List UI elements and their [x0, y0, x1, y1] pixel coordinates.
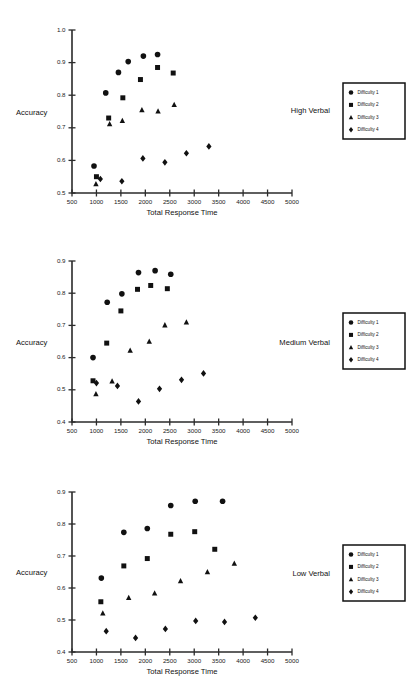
data-point — [162, 159, 167, 166]
figure-canvas: 0.50.60.70.80.91.05001000150020002500300… — [0, 0, 415, 698]
y-axis-title: Accuracy — [16, 568, 47, 577]
data-point — [116, 70, 122, 76]
series-square — [98, 529, 217, 604]
data-point — [193, 618, 198, 625]
data-point — [120, 118, 125, 123]
x-tick-label: 3500 — [212, 198, 226, 205]
data-point — [135, 287, 140, 292]
data-point — [90, 355, 96, 361]
series-circle — [91, 52, 160, 169]
data-point — [104, 341, 109, 346]
legend-label: Difficulty 3 — [358, 345, 380, 350]
x-tick-label: 500 — [67, 198, 78, 205]
data-point — [155, 65, 160, 70]
data-point — [103, 90, 109, 96]
legend-marker-square — [349, 565, 353, 569]
data-point — [205, 569, 210, 574]
y-tick-label: 0.6 — [57, 353, 66, 360]
data-point — [126, 595, 131, 600]
data-point — [91, 163, 97, 169]
data-point — [220, 498, 226, 504]
legend-label: Difficulty 4 — [358, 357, 380, 362]
y-tick-label: 0.5 — [57, 189, 66, 196]
y-tick-label: 0.6 — [57, 156, 66, 163]
data-point — [125, 59, 131, 65]
chart-1: 0.50.60.70.80.91.05001000150020002500300… — [16, 26, 405, 217]
x-tick-label: 2500 — [163, 657, 177, 664]
x-tick-label: 4000 — [236, 198, 250, 205]
x-tick-label: 2000 — [138, 198, 152, 205]
chart-title: High Verbal — [291, 106, 331, 115]
data-point — [141, 53, 147, 59]
series-diamond — [104, 614, 258, 641]
x-tick-label: 1000 — [90, 427, 104, 434]
y-tick-label: 0.5 — [57, 616, 66, 623]
x-tick-label: 500 — [67, 657, 78, 664]
data-point — [155, 108, 160, 113]
y-tick-label: 0.8 — [57, 289, 66, 296]
series-square — [91, 283, 170, 383]
x-tick-label: 5000 — [285, 657, 299, 664]
data-point — [98, 599, 103, 604]
data-point — [201, 370, 206, 377]
y-tick-label: 0.9 — [57, 58, 66, 65]
data-point — [179, 376, 184, 383]
data-point — [148, 283, 153, 288]
data-point — [106, 116, 111, 121]
data-point — [100, 610, 105, 615]
data-point — [119, 178, 124, 185]
series-triangle — [100, 560, 237, 615]
x-tick-label: 1500 — [114, 657, 128, 664]
data-point — [119, 291, 125, 297]
data-point — [184, 150, 189, 157]
legend: Difficulty 1Difficulty 2Difficulty 3Diff… — [343, 313, 405, 369]
legend-label: Difficulty 1 — [358, 552, 380, 557]
data-point — [93, 391, 98, 396]
series-triangle — [93, 319, 189, 396]
data-point — [99, 575, 105, 581]
data-point — [184, 319, 189, 324]
y-tick-label: 0.8 — [57, 91, 66, 98]
chart-title: Medium Verbal — [279, 338, 330, 347]
x-tick-label: 4500 — [261, 198, 275, 205]
data-point — [136, 270, 142, 276]
data-point — [136, 398, 141, 405]
y-tick-label: 0.7 — [57, 552, 66, 559]
y-tick-label: 0.6 — [57, 584, 66, 591]
y-tick-label: 0.9 — [57, 257, 66, 264]
legend-marker-circle — [349, 90, 354, 95]
data-point — [147, 339, 152, 344]
legend-label: Difficulty 2 — [358, 564, 380, 569]
x-tick-label: 3500 — [212, 427, 226, 434]
data-point — [168, 532, 173, 537]
y-tick-label: 0.9 — [57, 488, 66, 495]
data-point — [118, 308, 123, 313]
data-point — [138, 77, 143, 82]
y-axis-title: Accuracy — [16, 108, 47, 117]
y-axis-title: Accuracy — [16, 338, 47, 347]
axis-lines — [72, 492, 292, 652]
data-point — [171, 71, 176, 76]
series-circle — [99, 498, 226, 580]
x-tick-label: 4000 — [236, 427, 250, 434]
data-point — [139, 107, 144, 112]
data-point — [178, 578, 183, 583]
data-point — [206, 143, 211, 150]
data-point — [162, 322, 167, 327]
data-point — [104, 628, 109, 635]
x-axis-title: Total Response Time — [147, 667, 218, 676]
data-point — [222, 619, 227, 626]
data-point — [145, 556, 150, 561]
y-tick-label: 0.5 — [57, 385, 66, 392]
data-point — [121, 563, 126, 568]
y-tick-label: 0.4 — [57, 418, 66, 425]
data-point — [121, 530, 127, 536]
x-tick-label: 1500 — [114, 427, 128, 434]
x-tick-label: 5000 — [285, 427, 299, 434]
legend-marker-square — [349, 103, 353, 107]
series-triangle — [93, 102, 177, 187]
y-tick-label: 0.4 — [57, 648, 66, 655]
data-point — [152, 268, 158, 274]
data-point — [157, 385, 162, 392]
series-diamond — [94, 370, 206, 405]
